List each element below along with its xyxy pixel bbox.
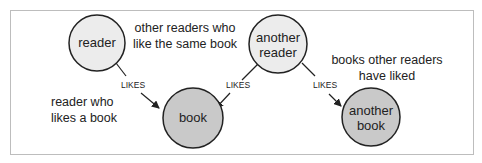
svg-text:book: book — [357, 118, 386, 133]
node-book: book — [163, 88, 223, 148]
edge-label: LIKES — [226, 80, 250, 90]
svg-text:reader: reader — [259, 45, 297, 60]
svg-text:other readers who: other readers who — [135, 21, 236, 35]
svg-text:likes a book: likes a book — [51, 111, 118, 125]
node-another-book: another book — [342, 88, 400, 146]
svg-text:reader: reader — [78, 35, 116, 50]
svg-text:like the same book: like the same book — [133, 37, 238, 51]
diagram-canvas: LIKES LIKES LIKES reader book another re… — [0, 0, 482, 163]
svg-text:another: another — [256, 30, 301, 45]
svg-text:books other readers: books other readers — [331, 53, 442, 67]
edge-label: LIKES — [121, 80, 145, 90]
svg-text:another: another — [349, 103, 394, 118]
node-reader: reader — [69, 15, 125, 71]
svg-text:reader who: reader who — [51, 95, 114, 109]
svg-text:book: book — [179, 110, 208, 125]
svg-text:have liked: have liked — [359, 69, 415, 83]
node-another-reader: another reader — [249, 15, 307, 73]
edge-label: LIKES — [313, 80, 337, 90]
